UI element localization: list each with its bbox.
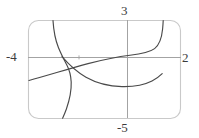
y-axis-max-label: 3 <box>121 4 128 17</box>
plot-canvas <box>0 0 199 138</box>
viewport-frame <box>29 21 181 119</box>
y-axis-min-label: -5 <box>117 121 128 134</box>
x-axis-max-label: 2 <box>182 51 189 64</box>
graph-screenshot: 3 -4 2 -5 <box>0 0 199 138</box>
x-axis-min-label: -4 <box>6 50 17 63</box>
